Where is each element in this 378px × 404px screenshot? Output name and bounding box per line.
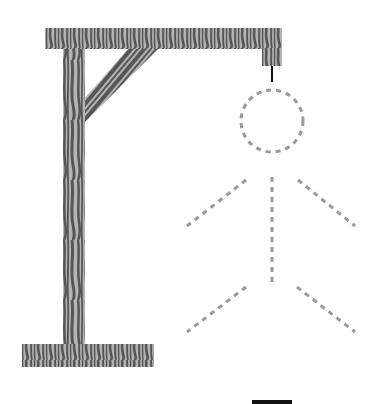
gallows-base bbox=[22, 344, 154, 367]
figure-right-arm bbox=[298, 180, 355, 226]
letter-blank bbox=[252, 400, 292, 404]
hangman-board bbox=[0, 0, 378, 404]
gallows-brace bbox=[85, 49, 158, 122]
gallows-hook-block bbox=[262, 49, 282, 66]
figure-right-leg bbox=[297, 287, 355, 332]
gallows-post bbox=[63, 49, 85, 345]
figure-left-arm bbox=[187, 180, 246, 226]
gallows-top-beam bbox=[45, 28, 282, 49]
figure-head bbox=[241, 90, 303, 152]
figure-left-leg bbox=[187, 287, 246, 332]
